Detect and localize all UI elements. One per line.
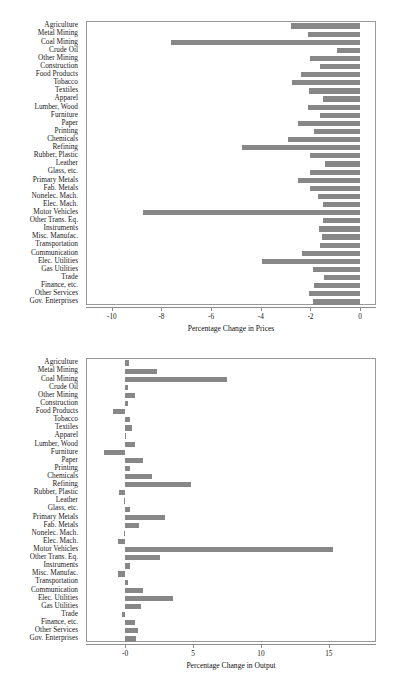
category-label: Lumber, Wood xyxy=(34,103,78,110)
bar xyxy=(309,88,360,93)
bar xyxy=(288,137,360,142)
bar xyxy=(143,210,360,215)
x-axis-output: -051015 xyxy=(0,644,393,662)
bar xyxy=(122,612,125,617)
axis-tick-label: -2 xyxy=(307,313,313,320)
category-label: Gov. Enterprises xyxy=(29,297,78,304)
category-label: Gov. Enterprises xyxy=(29,634,78,641)
bar xyxy=(125,474,151,479)
bar xyxy=(323,218,360,223)
category-label: Paper xyxy=(61,456,78,463)
bar xyxy=(125,555,160,560)
category-label: Nonelec. Mach. xyxy=(32,192,78,199)
plot-area-output xyxy=(86,358,376,642)
category-label: Furniture xyxy=(51,111,78,118)
axis-tick-label: -10 xyxy=(107,313,117,320)
bar xyxy=(125,580,128,585)
bar xyxy=(291,23,361,28)
bar xyxy=(124,498,125,503)
chart-output: AgricultureMetal MiningCoal MiningCrude … xyxy=(0,350,393,690)
bars-output xyxy=(87,359,375,641)
category-label: Crude Oil xyxy=(49,46,78,53)
axis-tick xyxy=(125,644,126,648)
bars-prices xyxy=(87,22,375,304)
category-label: Gas Utilities xyxy=(41,602,78,609)
bar xyxy=(125,523,139,528)
bar xyxy=(310,170,360,175)
category-label: Nonelec. Mach. xyxy=(32,529,78,536)
bar xyxy=(298,121,360,126)
x-axis-title-output: Percentage Change in Output xyxy=(186,662,275,670)
axis-tick-label: -8 xyxy=(158,313,164,320)
axis-tick-label: 0 xyxy=(358,313,362,320)
bar xyxy=(125,360,129,365)
bar xyxy=(323,96,360,101)
x-axis-title-prices: Percentage Change in Prices xyxy=(188,325,275,333)
axis-line xyxy=(86,644,376,645)
category-label: Glass, etc. xyxy=(48,167,78,174)
category-label: Transportation xyxy=(35,577,78,584)
bar xyxy=(125,482,191,487)
bar xyxy=(125,466,130,471)
axis-tick xyxy=(193,644,194,648)
category-label: Communication xyxy=(31,586,78,593)
bar xyxy=(125,417,130,422)
category-label: Communication xyxy=(31,249,78,256)
bar xyxy=(318,194,360,199)
category-label: Crude Oil xyxy=(49,383,78,390)
bar xyxy=(113,409,125,414)
axis-tick-label: -6 xyxy=(208,313,214,320)
bar xyxy=(313,267,360,272)
bar xyxy=(118,571,125,576)
category-label: Primary Metals xyxy=(33,513,78,520)
bar xyxy=(320,243,360,248)
bar xyxy=(125,563,130,568)
bar xyxy=(125,377,227,382)
axis-tick xyxy=(261,307,262,311)
axis-tick-label: -4 xyxy=(258,313,264,320)
bar xyxy=(292,80,360,85)
category-label: Furniture xyxy=(51,448,78,455)
axis-tick xyxy=(112,307,113,311)
bar xyxy=(124,531,125,536)
category-label: Apparel xyxy=(54,94,78,101)
bar xyxy=(337,48,361,53)
axis-tick xyxy=(211,307,212,311)
bar xyxy=(119,490,125,495)
bar xyxy=(314,129,360,134)
bar xyxy=(118,539,125,544)
category-label: Other Mining xyxy=(38,391,78,398)
bar xyxy=(301,72,361,77)
chart-prices: AgricultureMetal MiningCoal MiningCrude … xyxy=(0,0,393,345)
category-label: Fab. Metals xyxy=(44,184,78,191)
bar xyxy=(125,588,143,593)
bar xyxy=(298,178,360,183)
axis-tick xyxy=(360,307,361,311)
category-label: Elec. Utilities xyxy=(38,257,78,264)
bar xyxy=(125,507,130,512)
bar xyxy=(125,458,143,463)
axis-line xyxy=(86,307,376,308)
category-label: Transportation xyxy=(35,240,78,247)
bar xyxy=(320,113,360,118)
bar xyxy=(320,64,360,69)
bar xyxy=(322,234,360,239)
category-axis-labels-output: AgricultureMetal MiningCoal MiningCrude … xyxy=(0,358,82,642)
category-label: Coal Mining xyxy=(41,375,78,382)
x-axis-prices: -10-8-6-4-20 xyxy=(0,307,393,325)
plot-area-prices xyxy=(86,21,376,305)
bar xyxy=(125,369,157,374)
category-label: Apparel xyxy=(54,431,78,438)
axis-tick xyxy=(161,307,162,311)
bar xyxy=(314,283,360,288)
bar xyxy=(125,604,141,609)
bar xyxy=(125,442,135,447)
category-label: Metal Mining xyxy=(38,366,78,373)
bar xyxy=(324,275,360,280)
axis-tick xyxy=(329,644,330,648)
figure-page: AgricultureMetal MiningCoal MiningCrude … xyxy=(0,0,393,690)
bar xyxy=(310,56,360,61)
bar xyxy=(125,385,128,390)
bar xyxy=(125,620,135,625)
bar xyxy=(125,433,126,438)
